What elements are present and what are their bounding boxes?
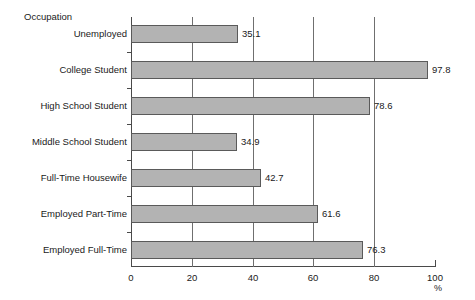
y-axis-tick — [127, 196, 131, 197]
x-tick-label: 60 — [293, 272, 333, 283]
y-axis-tick — [127, 124, 131, 125]
bar-value-label: 42.7 — [265, 169, 284, 187]
x-tick-label: 20 — [172, 272, 212, 283]
category-label: Full-Time Housewife — [0, 169, 127, 187]
bar-chart: Occupation 35.197.878.634.942.761.676.3 … — [0, 0, 475, 300]
x-tick-label: 0 — [111, 272, 151, 283]
category-label: College Student — [0, 61, 127, 79]
y-axis-tick — [127, 88, 131, 89]
x-tick-label: 80 — [354, 272, 394, 283]
bar-value-label: 61.6 — [322, 205, 341, 223]
x-tick-label: 40 — [233, 272, 273, 283]
category-label: Employed Full-Time — [0, 241, 127, 259]
y-axis-tick — [127, 160, 131, 161]
bar — [131, 169, 261, 187]
y-axis-title: Occupation — [24, 11, 72, 23]
bar — [131, 205, 318, 223]
plot-area: 35.197.878.634.942.761.676.3 — [131, 17, 435, 267]
y-axis-tick — [127, 52, 131, 53]
y-axis-tick — [127, 232, 131, 233]
bar-value-label: 76.3 — [367, 241, 386, 259]
x-axis-line — [131, 266, 435, 267]
bar — [131, 25, 238, 43]
category-label: Middle School Student — [0, 133, 127, 151]
bar-value-label: 35.1 — [242, 25, 261, 43]
bar — [131, 61, 428, 79]
bar — [131, 97, 370, 115]
x-axis-unit-label: % — [434, 283, 442, 293]
gridline-80 — [374, 17, 375, 267]
gridline-60 — [313, 17, 314, 267]
bar-value-label: 34.9 — [241, 133, 260, 151]
bar-value-label: 78.6 — [374, 97, 393, 115]
bar — [131, 133, 237, 151]
x-axis-end-tick — [435, 260, 436, 267]
category-label: Unemployed — [0, 25, 127, 43]
category-label: High School Student — [0, 97, 127, 115]
category-label: Employed Part-Time — [0, 205, 127, 223]
x-tick-label: 100 — [415, 272, 455, 283]
bar — [131, 241, 363, 259]
bar-value-label: 97.8 — [432, 61, 451, 79]
